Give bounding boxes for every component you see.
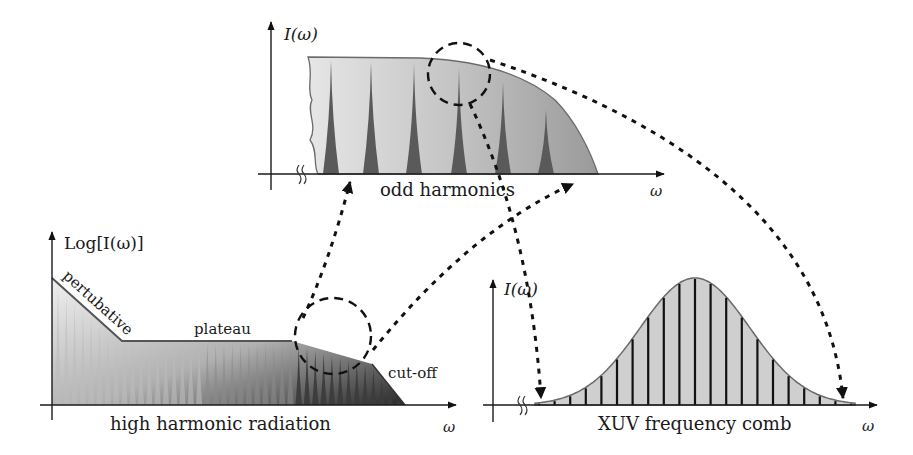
odd-harmonics-envelope xyxy=(308,57,598,174)
top-y-label: I(ω) xyxy=(283,24,318,44)
br-y-label: I(ω) xyxy=(503,279,538,299)
br-x-label: ω xyxy=(862,417,874,435)
br-caption: XUV frequency comb xyxy=(598,413,791,434)
arrow-right-to-top xyxy=(373,184,573,350)
bl-x-label: ω xyxy=(443,418,455,436)
top-x-label: ω xyxy=(650,182,662,200)
xuv-comb-lines xyxy=(539,279,851,405)
top-panel: I(ω) ω odd harmonics xyxy=(258,22,664,200)
hhg-diagram: I(ω) ω odd harmonics Log[I(ω)] ω high ha… xyxy=(0,0,913,455)
region-cut-off: cut-off xyxy=(388,364,438,382)
region-plateau: plateau xyxy=(194,320,251,338)
top-caption: odd harmonics xyxy=(380,179,515,200)
bl-caption: high harmonic radiation xyxy=(110,413,331,434)
bl-y-label: Log[I(ω)] xyxy=(64,233,144,253)
bottom-left-panel: Log[I(ω)] ω high harmonic radiation pert… xyxy=(40,232,456,436)
